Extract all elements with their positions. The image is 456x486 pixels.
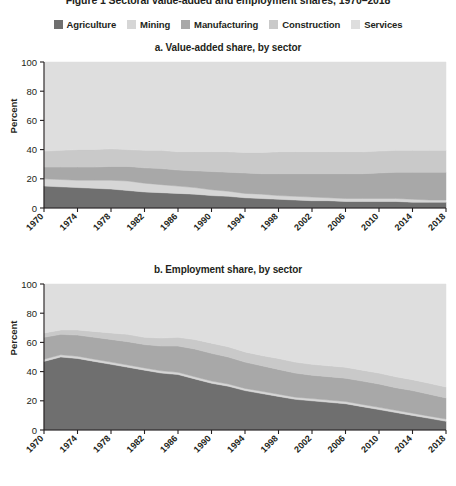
panel-a-plot: Percent 02040608010019701974197819821986… bbox=[0, 60, 456, 220]
legend-label: Agriculture bbox=[67, 19, 117, 30]
y-tick-label: 20 bbox=[26, 395, 37, 406]
x-tick-label: 1998 bbox=[259, 211, 280, 232]
x-tick-label: 1994 bbox=[225, 211, 246, 232]
area-series-services bbox=[44, 62, 446, 153]
x-tick-label: 1974 bbox=[58, 433, 79, 454]
x-tick-label: 1978 bbox=[91, 211, 112, 232]
y-tick-label: 80 bbox=[26, 308, 37, 319]
legend-label: Construction bbox=[282, 19, 340, 30]
legend-label: Mining bbox=[140, 19, 170, 30]
x-tick-label: 2014 bbox=[393, 211, 414, 232]
legend-item-construction[interactable]: Construction bbox=[269, 19, 340, 30]
chart-legend: AgricultureMiningManufacturingConstructi… bbox=[0, 19, 456, 30]
x-tick-label: 2014 bbox=[393, 433, 414, 454]
x-tick-label: 1998 bbox=[259, 433, 280, 454]
x-tick-label: 2006 bbox=[326, 211, 347, 232]
legend-label: Services bbox=[364, 19, 402, 30]
x-tick-label: 1970 bbox=[24, 211, 45, 232]
x-tick-label: 2002 bbox=[292, 433, 313, 454]
x-tick-label: 2010 bbox=[359, 433, 380, 454]
legend-item-mining[interactable]: Mining bbox=[127, 19, 170, 30]
legend-item-agriculture[interactable]: Agriculture bbox=[54, 19, 117, 30]
x-tick-label: 1982 bbox=[125, 433, 146, 454]
x-tick-label: 1994 bbox=[225, 433, 246, 454]
x-tick-label: 1986 bbox=[158, 211, 179, 232]
y-tick-label: 40 bbox=[26, 366, 37, 377]
panel-value-added: a. Value-added share, by sector Percent … bbox=[0, 42, 456, 264]
legend-swatch-icon bbox=[54, 20, 63, 29]
panel-b-title: b. Employment share, by sector bbox=[0, 264, 456, 275]
y-tick-label: 60 bbox=[26, 337, 37, 348]
panel-employment: b. Employment share, by sector Percent 0… bbox=[0, 264, 456, 486]
y-tick-label: 20 bbox=[26, 173, 37, 184]
x-tick-label: 2006 bbox=[326, 433, 347, 454]
y-tick-label: 60 bbox=[26, 115, 37, 126]
x-tick-label: 2010 bbox=[359, 211, 380, 232]
x-tick-label: 1982 bbox=[125, 211, 146, 232]
legend-item-services[interactable]: Services bbox=[351, 19, 402, 30]
x-tick-label: 2018 bbox=[426, 211, 447, 232]
legend-item-manufacturing[interactable]: Manufacturing bbox=[181, 19, 258, 30]
y-tick-label: 40 bbox=[26, 144, 37, 155]
x-tick-label: 1978 bbox=[91, 433, 112, 454]
y-tick-label: 0 bbox=[32, 425, 37, 436]
figure-top-title: Figure 1 Sectoral value-added and employ… bbox=[0, 0, 456, 6]
x-tick-label: 2018 bbox=[426, 433, 447, 454]
panel-b-plot: Percent 02040608010019701974197819821986… bbox=[0, 282, 456, 442]
y-tick-label: 80 bbox=[26, 86, 37, 97]
x-tick-label: 1990 bbox=[192, 433, 213, 454]
x-tick-label: 1974 bbox=[58, 211, 79, 232]
x-tick-label: 1970 bbox=[24, 433, 45, 454]
y-tick-label: 0 bbox=[32, 203, 37, 214]
legend-swatch-icon bbox=[181, 20, 190, 29]
panel-a-svg: 0204060801001970197419781982198619901994… bbox=[0, 60, 456, 264]
y-tick-label: 100 bbox=[21, 60, 37, 68]
x-tick-label: 1986 bbox=[158, 433, 179, 454]
y-tick-label: 100 bbox=[21, 282, 37, 290]
legend-swatch-icon bbox=[351, 20, 360, 29]
x-tick-label: 1990 bbox=[192, 211, 213, 232]
legend-swatch-icon bbox=[127, 20, 136, 29]
legend-label: Manufacturing bbox=[194, 19, 258, 30]
panel-b-svg: 0204060801001970197419781982198619901994… bbox=[0, 282, 456, 486]
figure-container: Figure 1 Sectoral value-added and employ… bbox=[0, 0, 456, 486]
x-tick-label: 2002 bbox=[292, 211, 313, 232]
panel-a-title: a. Value-added share, by sector bbox=[0, 42, 456, 53]
legend-swatch-icon bbox=[269, 20, 278, 29]
